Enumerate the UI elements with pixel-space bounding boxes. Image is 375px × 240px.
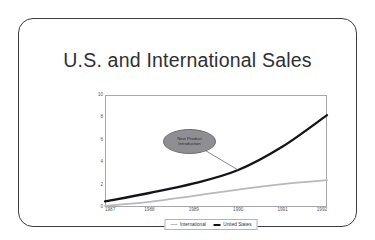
y-axis-tick-label: 8: [88, 115, 103, 120]
series-line-international: [105, 180, 327, 206]
slide-frame: U.S. and International Sales 0246810 198…: [18, 18, 357, 227]
legend-swatch-icon: [214, 224, 221, 226]
chart-legend: InternationalUnited States: [165, 219, 258, 230]
x-axis-tick-label: 1990: [233, 208, 243, 213]
legend-swatch-icon: [171, 224, 178, 225]
legend-item-label: United States: [223, 222, 251, 227]
y-axis-tick-label: 6: [88, 138, 103, 143]
y-axis: 0246810: [87, 95, 103, 207]
y-axis-tick-label: 10: [88, 93, 103, 98]
page-title: U.S. and International Sales: [19, 49, 356, 72]
legend-item[interactable]: United States: [214, 222, 252, 227]
y-axis-tick-label: 0: [88, 205, 103, 210]
x-axis-tick-label: 1991: [277, 208, 287, 213]
annotation-text-line2: Introduction: [178, 142, 200, 147]
legend-item[interactable]: International: [171, 222, 206, 227]
series-line-united-states: [105, 115, 327, 201]
legend-item-label: International: [180, 222, 206, 227]
x-axis-tick-label: 1989: [189, 208, 199, 213]
y-axis-tick-label: 2: [88, 182, 103, 187]
x-axis: 198719881989199019911992: [105, 208, 327, 218]
x-axis-tick-label: 1992: [317, 208, 327, 213]
x-axis-tick-label: 1987: [105, 208, 115, 213]
x-axis-tick-label: 1988: [144, 208, 154, 213]
sales-line-chart: 0246810 198719881989199019911992 New Pro…: [87, 87, 335, 237]
plot-series-layer: [105, 95, 327, 207]
annotation-callout: New Product Introduction: [163, 129, 216, 154]
slide-canvas: U.S. and International Sales 0246810 198…: [0, 0, 375, 240]
y-axis-tick-label: 4: [88, 160, 103, 165]
